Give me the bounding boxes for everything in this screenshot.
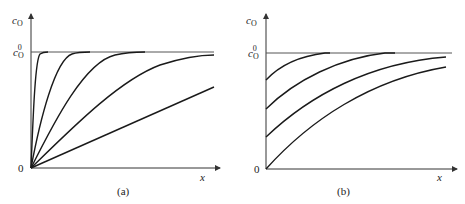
panel-a: cO cO0 0 x (a) [12, 14, 220, 198]
x-axis-label: x [436, 171, 442, 183]
reference-label: cO0 [13, 43, 24, 60]
origin-label: 0 [254, 163, 260, 175]
caption-a: (a) [117, 185, 130, 198]
curve-4 [266, 67, 446, 169]
caption-b: (b) [337, 185, 350, 198]
y-axis-label: cO [12, 14, 23, 28]
curve-4 [31, 55, 214, 168]
x-axis-label: x [199, 171, 205, 183]
y-axis-label: cO [246, 14, 257, 28]
curve-1 [266, 53, 330, 80]
panel-b: cO cO0 0 x (b) [246, 14, 457, 198]
reference-label: cO0 [248, 44, 259, 61]
diffusion-profiles-figure: cO cO0 0 x (a) cO cO0 0 x (b) [0, 0, 465, 204]
curve-5 [31, 87, 214, 168]
curve-2 [266, 53, 395, 109]
origin-label: 0 [18, 162, 24, 174]
